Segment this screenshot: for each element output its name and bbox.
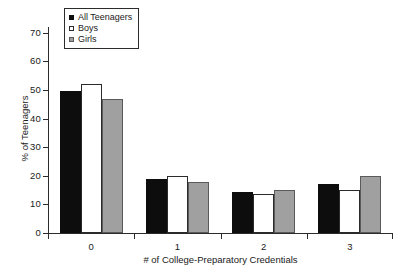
y-axis-tick-label: 30 bbox=[7, 141, 41, 152]
bar-all-teenagers-cat-1 bbox=[146, 179, 167, 233]
x-axis-tick bbox=[48, 234, 49, 239]
y-axis-tick bbox=[43, 90, 48, 91]
y-axis-tick bbox=[43, 147, 48, 148]
x-axis-tick-label: 0 bbox=[71, 241, 111, 252]
bar-girls-cat-3 bbox=[360, 176, 381, 233]
plot-area bbox=[48, 27, 393, 233]
bar-girls-cat-1 bbox=[188, 182, 209, 234]
x-axis-tick-label: 2 bbox=[244, 241, 284, 252]
y-axis-tick bbox=[43, 204, 48, 205]
bar-boys-cat-3 bbox=[339, 190, 360, 233]
y-axis-tick bbox=[43, 119, 48, 120]
legend-swatch-icon bbox=[69, 26, 74, 31]
bar-all-teenagers-cat-3 bbox=[318, 184, 339, 233]
bar-boys-cat-1 bbox=[167, 176, 188, 233]
bar-boys-cat-2 bbox=[253, 194, 274, 233]
legend-swatch-icon bbox=[69, 15, 74, 20]
y-axis-tick-label: 10 bbox=[7, 198, 41, 209]
y-axis-tick bbox=[43, 33, 48, 34]
legend-swatch-icon bbox=[69, 37, 74, 42]
legend-item: All Teenagers bbox=[69, 12, 132, 23]
bar-boys-cat-0 bbox=[81, 84, 102, 233]
y-axis-tick bbox=[43, 61, 48, 62]
x-axis-tick bbox=[134, 234, 135, 239]
y-axis-tick-labels: 010203040506070 bbox=[0, 27, 41, 233]
bar-girls-cat-2 bbox=[274, 190, 295, 233]
y-axis-tick-label: 20 bbox=[7, 170, 41, 181]
y-axis-tick bbox=[43, 176, 48, 177]
chart-legend: All TeenagersBoysGirls bbox=[64, 8, 139, 49]
bar-chart: % of Teenagers 010203040506070 0123 # of… bbox=[0, 0, 403, 273]
x-axis-ticks: 0123 bbox=[48, 234, 393, 240]
bar-girls-cat-0 bbox=[102, 99, 123, 233]
y-axis-tick-label: 0 bbox=[7, 227, 41, 238]
y-axis-tick-label: 60 bbox=[7, 55, 41, 66]
x-axis-tick-label: 3 bbox=[330, 241, 370, 252]
legend-label: All Teenagers bbox=[78, 12, 132, 23]
legend-item: Girls bbox=[69, 34, 132, 45]
legend-label: Girls bbox=[78, 34, 97, 45]
y-axis-tick-label: 40 bbox=[7, 113, 41, 124]
bar-all-teenagers-cat-2 bbox=[232, 192, 253, 233]
bar-all-teenagers-cat-0 bbox=[60, 91, 81, 233]
legend-item: Boys bbox=[69, 23, 132, 34]
x-axis-tick bbox=[392, 234, 393, 239]
x-axis-tick-label: 1 bbox=[157, 241, 197, 252]
x-axis-tick bbox=[307, 234, 308, 239]
legend-label: Boys bbox=[78, 23, 98, 34]
x-axis-tick bbox=[221, 234, 222, 239]
y-axis-tick-label: 50 bbox=[7, 84, 41, 95]
y-axis-tick-label: 70 bbox=[7, 27, 41, 38]
x-axis-title: # of College-Preparatory Credentials bbox=[48, 254, 393, 265]
